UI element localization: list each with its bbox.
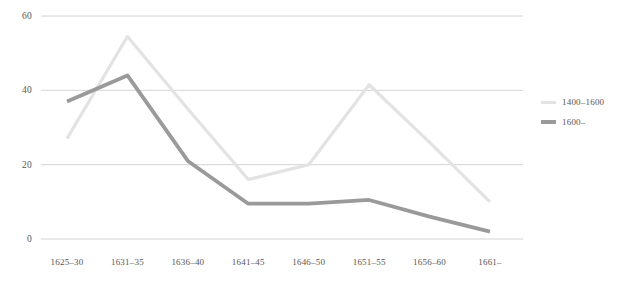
x-tick-3: 1641–45 [232,257,265,267]
y-tick-20: 20 [6,160,32,170]
x-tick-2: 1636–40 [171,257,204,267]
x-tick-7: 1661– [478,257,502,267]
chart-plot-area [0,0,644,282]
legend-label-1400-1600: 1400–1600 [562,97,604,107]
x-tick-1: 1631–35 [111,257,144,267]
series-line-1 [67,75,490,231]
legend-label-1600: 1600– [562,117,586,127]
series-line-0 [67,36,490,201]
x-tick-5: 1651–55 [353,257,386,267]
y-tick-40: 40 [6,85,32,95]
y-tick-0: 0 [6,234,32,244]
legend-swatch-1600 [541,120,556,124]
legend-item-0[interactable]: 1400–1600 [541,92,641,112]
legend-item-1[interactable]: 1600– [541,112,641,132]
x-tick-4: 1646–50 [292,257,325,267]
line-chart: 0204060 1625–301631–351636–401641–451646… [0,0,644,282]
series-lines [67,36,490,231]
x-tick-0: 1625–30 [51,257,84,267]
y-tick-60: 60 [6,11,32,21]
legend-swatch-1400-1600 [541,101,556,104]
chart-legend: 1400–1600 1600– [541,92,641,132]
x-tick-6: 1656–60 [413,257,446,267]
